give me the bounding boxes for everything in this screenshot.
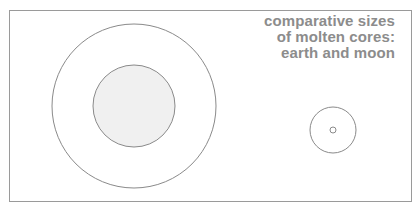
earth-group [52, 24, 216, 188]
earth-core [93, 65, 175, 147]
cores-diagram [0, 0, 420, 210]
moon-group [310, 107, 356, 153]
moon-core [330, 127, 336, 133]
